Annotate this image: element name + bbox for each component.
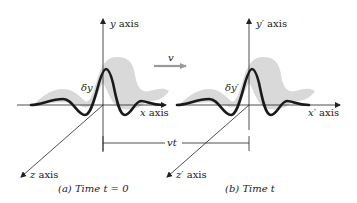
z-axis-label-b: z′ axis [175, 169, 207, 180]
z-axis-a [21, 105, 103, 177]
x-axis-label-b: x′ axis [308, 107, 339, 118]
displacement-bracket: vt [103, 136, 249, 151]
x-axis-label-a: x axis [140, 107, 169, 118]
panel-a: y axis x axis z axis δy (a) Time t = 0 [17, 18, 169, 194]
velocity-label: v [168, 52, 174, 63]
y-axis-label-b: y′ axis [255, 18, 287, 29]
y-axis-label-a: y axis [109, 18, 139, 29]
caption-b: (b) Time t [225, 183, 276, 194]
velocity-indicator: v [154, 52, 186, 66]
displacement-label-b: δy′ [225, 82, 240, 93]
vt-label: vt [167, 137, 178, 148]
z-axis-b [167, 105, 249, 177]
caption-a: (a) Time t = 0 [58, 183, 129, 194]
wave-diagram: y axis x axis z axis δy (a) Time t = 0 v… [0, 0, 357, 203]
panel-b: y′ axis x′ axis z′ axis δy′ (b) Time t [167, 18, 340, 194]
displacement-label-a: δy [81, 82, 93, 93]
z-axis-label-a: z axis [29, 169, 58, 180]
